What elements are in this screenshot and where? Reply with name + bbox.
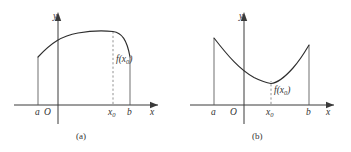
tick-label-b-x0-subscript: 0	[270, 111, 273, 118]
diagram-b-graphic	[176, 0, 351, 152]
tick-label-b-x0: x0	[266, 108, 273, 118]
tick-label-a-right-bound: b	[127, 108, 132, 118]
function-curve-b	[214, 38, 309, 84]
function-value-label-a-arg-sub: 0	[126, 58, 129, 65]
function-value-label-b: f(x0)	[274, 86, 290, 96]
origin-label-a: O	[44, 108, 51, 118]
diagram-panel-b: y O a x0 b x f(x0) (b)	[176, 0, 351, 152]
function-value-label-b-close: )	[287, 85, 290, 95]
tick-label-a-x0-subscript: 0	[112, 111, 115, 118]
diagram-panel-a: y O a x0 b x f(x0) (a)	[0, 0, 175, 152]
function-value-label-a: f(x0)	[116, 55, 132, 65]
tick-label-b-right-bound: b	[306, 108, 311, 118]
y-axis-label-a: y	[53, 12, 57, 22]
tick-label-a-left-bound: a	[35, 108, 40, 118]
origin-label-b: O	[230, 108, 237, 118]
x-axis-label-b: x	[326, 108, 330, 118]
figure-container: y O a x0 b x f(x0) (a) y O a	[0, 0, 351, 152]
caption-a: (a)	[76, 131, 86, 141]
y-axis-label-b: y	[239, 12, 243, 22]
function-value-label-a-close: )	[129, 54, 132, 64]
diagram-a-graphic	[0, 0, 175, 152]
function-value-label-b-arg-sub: 0	[284, 89, 287, 96]
tick-label-b-left-bound: a	[211, 108, 216, 118]
tick-label-a-x0: x0	[108, 108, 115, 118]
x-axis-label-a: x	[150, 108, 154, 118]
caption-b: (b)	[252, 131, 263, 141]
